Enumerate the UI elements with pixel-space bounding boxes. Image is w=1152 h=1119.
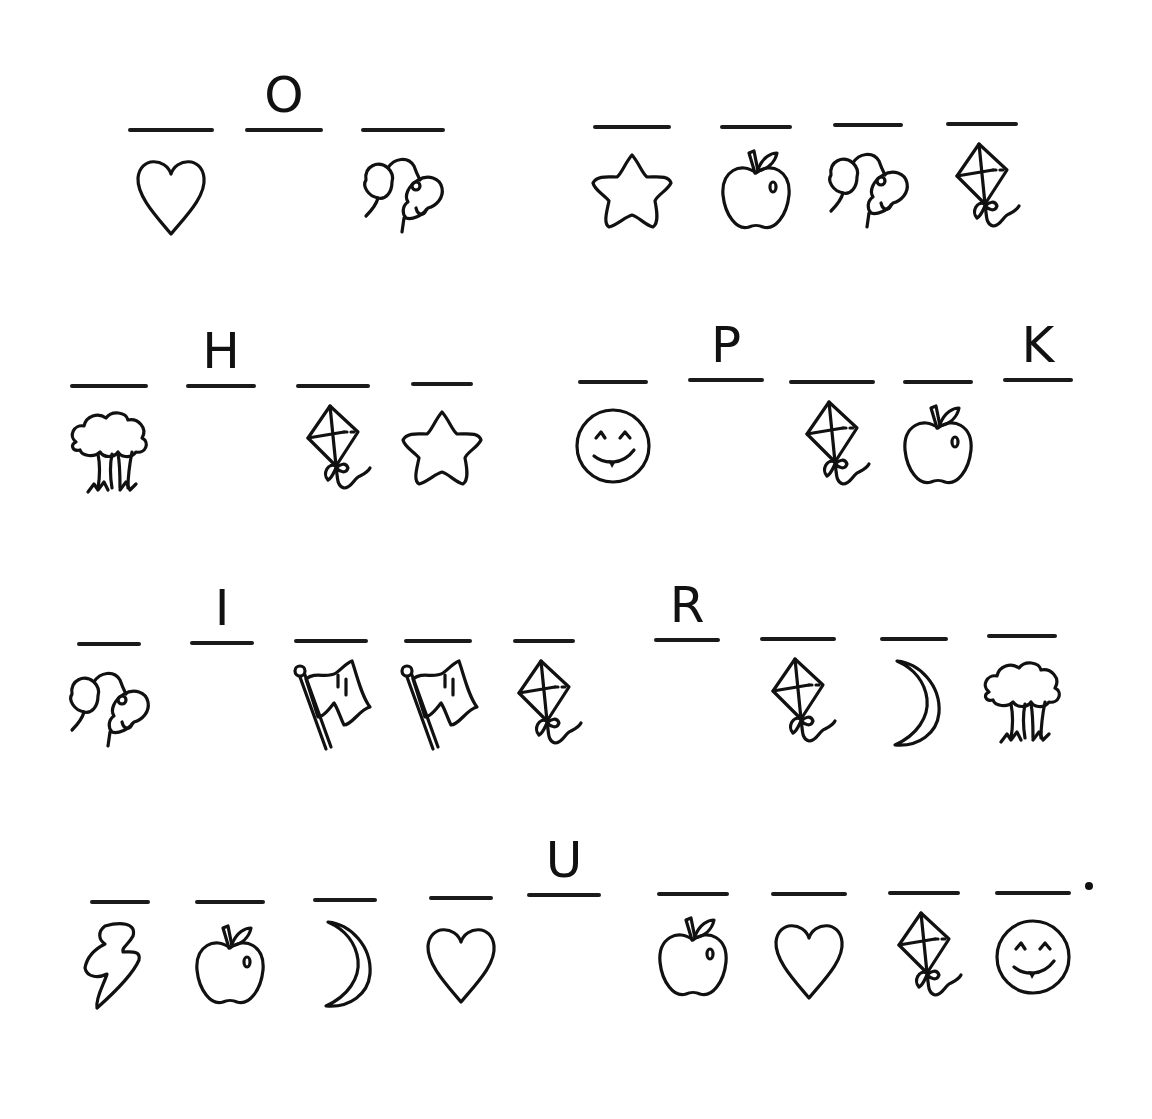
answer-blank[interactable] bbox=[995, 821, 1071, 1021]
answer-blank[interactable]: P bbox=[688, 308, 764, 508]
answer-blank[interactable] bbox=[361, 58, 445, 258]
blank-line bbox=[688, 378, 764, 382]
tree-icon bbox=[977, 652, 1067, 747]
answer-blank[interactable] bbox=[195, 830, 265, 1030]
given-letter: P bbox=[688, 320, 764, 370]
blank-line bbox=[1003, 378, 1073, 382]
blank-line bbox=[294, 639, 368, 643]
blank-line bbox=[880, 637, 948, 641]
answer-blank[interactable] bbox=[128, 58, 214, 258]
answer-blank[interactable]: H bbox=[186, 314, 256, 514]
moon-icon bbox=[869, 655, 959, 750]
answer-blank[interactable] bbox=[90, 830, 150, 1030]
answer-blank[interactable] bbox=[903, 310, 973, 510]
kite-icon bbox=[787, 398, 877, 493]
answer-blank[interactable] bbox=[987, 564, 1057, 764]
blank-line bbox=[77, 642, 141, 646]
apple-icon bbox=[185, 918, 275, 1013]
heart-icon bbox=[416, 914, 506, 1009]
heart-icon bbox=[764, 910, 854, 1005]
dog-icon bbox=[358, 146, 448, 241]
blank-line bbox=[760, 637, 836, 641]
answer-blank[interactable] bbox=[657, 822, 729, 1022]
answer-blank[interactable] bbox=[946, 52, 1018, 252]
blank-line bbox=[527, 893, 601, 897]
answer-blank[interactable] bbox=[888, 821, 960, 1021]
flag-icon bbox=[393, 657, 483, 752]
heart-icon bbox=[126, 146, 216, 241]
blank-line bbox=[128, 128, 214, 132]
kite-icon bbox=[937, 140, 1027, 235]
blank-line bbox=[903, 380, 973, 384]
answer-blank[interactable]: K bbox=[1003, 308, 1073, 508]
answer-blank[interactable]: O bbox=[245, 58, 323, 258]
blank-line bbox=[186, 384, 256, 388]
answer-blank[interactable] bbox=[771, 822, 847, 1022]
answer-blank[interactable] bbox=[77, 572, 141, 772]
answer-blank[interactable] bbox=[760, 567, 836, 767]
answer-blank[interactable] bbox=[294, 569, 368, 769]
answer-blank[interactable] bbox=[513, 569, 575, 769]
flag-icon bbox=[286, 657, 376, 752]
answer-blank[interactable] bbox=[70, 314, 148, 514]
smiley-icon bbox=[568, 398, 658, 493]
blank-line bbox=[789, 380, 875, 384]
blank-line bbox=[833, 123, 903, 127]
given-letter: U bbox=[527, 835, 601, 885]
blank-line bbox=[513, 639, 575, 643]
answer-blank[interactable] bbox=[411, 312, 473, 512]
given-letter: R bbox=[654, 580, 720, 630]
kite-icon bbox=[753, 655, 843, 750]
apple-icon bbox=[893, 398, 983, 493]
period-mark bbox=[1085, 882, 1093, 890]
blank-line bbox=[190, 641, 254, 645]
answer-blank[interactable] bbox=[313, 828, 377, 1028]
answer-blank[interactable] bbox=[833, 53, 903, 253]
star-icon bbox=[397, 400, 487, 495]
lightning-icon bbox=[75, 918, 165, 1013]
blank-line bbox=[654, 638, 720, 642]
smiley-icon bbox=[988, 909, 1078, 1004]
blank-line bbox=[720, 125, 792, 129]
kite-icon bbox=[499, 657, 589, 752]
blank-line bbox=[888, 891, 960, 895]
answer-blank[interactable] bbox=[404, 569, 472, 769]
given-letter: K bbox=[1003, 320, 1073, 370]
kite-icon bbox=[288, 402, 378, 497]
blank-line bbox=[296, 384, 370, 388]
blank-line bbox=[90, 900, 150, 904]
blank-line bbox=[593, 125, 671, 129]
answer-blank[interactable] bbox=[578, 310, 648, 510]
dog-icon bbox=[823, 141, 913, 236]
answer-blank[interactable] bbox=[593, 55, 671, 255]
star-icon bbox=[587, 143, 677, 238]
answer-blank[interactable] bbox=[720, 55, 792, 255]
blank-line bbox=[70, 384, 148, 388]
apple-icon bbox=[648, 910, 738, 1005]
blank-line bbox=[313, 898, 377, 902]
dog-icon bbox=[64, 660, 154, 755]
blank-line bbox=[404, 639, 472, 643]
answer-blank[interactable]: I bbox=[190, 571, 254, 771]
blank-line bbox=[995, 891, 1071, 895]
answer-blank[interactable]: R bbox=[654, 568, 720, 768]
given-letter: I bbox=[190, 583, 254, 633]
answer-blank[interactable] bbox=[789, 310, 875, 510]
blank-line bbox=[361, 128, 445, 132]
kite-icon bbox=[879, 909, 969, 1004]
blank-line bbox=[657, 892, 729, 896]
apple-icon bbox=[711, 143, 801, 238]
given-letter: O bbox=[245, 70, 323, 120]
blank-line bbox=[411, 382, 473, 386]
given-letter: H bbox=[186, 326, 256, 376]
blank-line bbox=[195, 900, 265, 904]
answer-blank[interactable] bbox=[880, 567, 948, 767]
blank-line bbox=[245, 128, 323, 132]
blank-line bbox=[578, 380, 648, 384]
answer-blank[interactable] bbox=[296, 314, 370, 514]
answer-blank[interactable] bbox=[429, 826, 493, 1026]
blank-line bbox=[946, 122, 1018, 126]
moon-icon bbox=[300, 916, 390, 1011]
blank-line bbox=[429, 896, 493, 900]
answer-blank[interactable]: U bbox=[527, 823, 601, 1023]
